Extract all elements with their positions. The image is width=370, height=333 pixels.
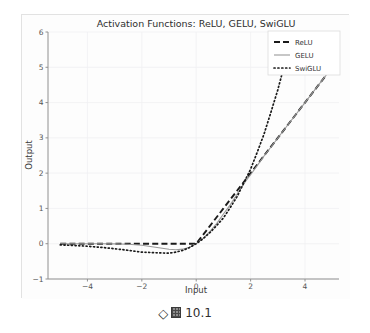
boxed-cjk-glyph-icon: [171, 307, 181, 318]
y-tick-label: 4: [39, 98, 44, 107]
y-tick-label: 3: [39, 133, 44, 142]
y-tick-label: 2: [39, 169, 44, 178]
figure-root: −10123456−4−2024 Activation Functions: R…: [0, 0, 370, 333]
chart-title: Activation Functions: ReLU, GELU, SwiGLU: [97, 18, 296, 29]
y-tick-label: 1: [39, 204, 44, 213]
legend-label-relu: ReLU: [295, 39, 313, 47]
legend-label-gelu: GELU: [295, 52, 314, 60]
figure-number: 10.1: [185, 306, 212, 320]
y-tick-label: 0: [39, 239, 44, 248]
x-tick-label: −4: [82, 282, 93, 291]
diamond-icon: ◇: [158, 305, 168, 323]
x-tick-label: 4: [303, 282, 308, 291]
x-axis-label: Input: [185, 285, 208, 295]
y-axis-label: Output: [24, 140, 34, 170]
y-tick-label: 6: [39, 28, 44, 37]
chart-legend[interactable]: ReLUGELUSwiGLU: [268, 31, 340, 75]
legend-label-swiglu: SwiGLU: [295, 65, 321, 73]
activation-functions-chart: −10123456−4−2024 Activation Functions: R…: [22, 15, 350, 299]
y-tick-label: −1: [32, 275, 43, 284]
x-tick-label: 2: [248, 282, 253, 291]
chart-figure-card: −10123456−4−2024 Activation Functions: R…: [21, 14, 349, 298]
figure-caption: ◇10.1: [0, 304, 370, 323]
x-tick-label: −2: [136, 282, 147, 291]
y-tick-label: 5: [39, 63, 44, 72]
